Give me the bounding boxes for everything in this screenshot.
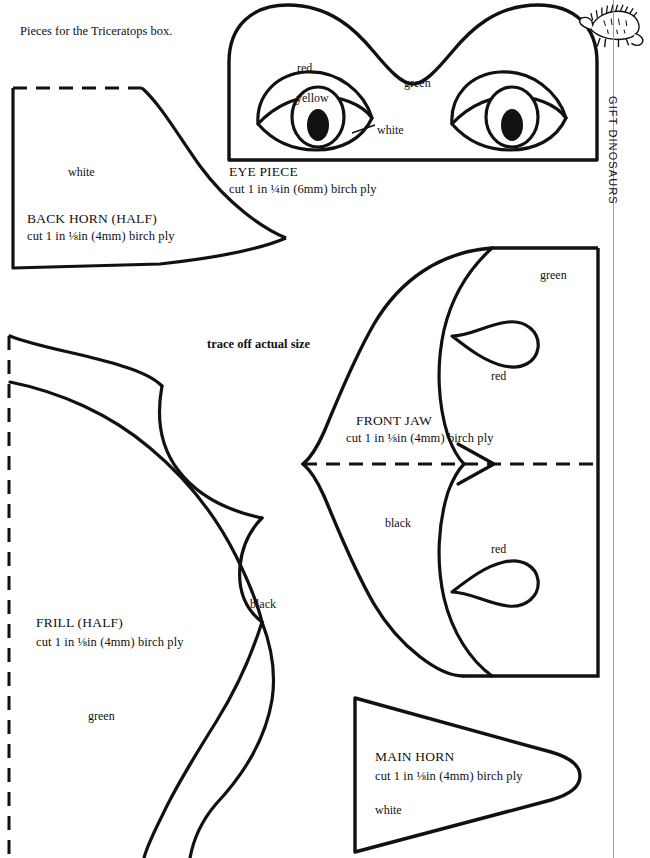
front-jaw-right-edge — [463, 248, 598, 676]
front-jaw-title: FRONT JAW — [356, 413, 432, 429]
eye-colour-green: green — [404, 76, 431, 91]
front-jaw-spec: cut 1 in ⅛in (4mm) birch ply — [346, 431, 494, 446]
intro-note: Pieces for the Triceratops box. — [20, 24, 172, 39]
right-eye-pupil — [501, 109, 523, 141]
front-jaw-shape — [303, 248, 598, 676]
front-jaw-nostril-upper — [452, 322, 538, 367]
jaw-colour-green: green — [540, 268, 567, 283]
front-jaw-nostril-lower — [452, 561, 538, 606]
trace-note: trace off actual size — [207, 337, 310, 352]
eye-piece-title: EYE PIECE — [229, 164, 298, 180]
main-horn-title: MAIN HORN — [375, 749, 454, 765]
eye-colour-yellow: yellow — [296, 91, 329, 106]
left-eye-pupil — [307, 109, 329, 141]
dinosaur-body — [591, 11, 639, 39]
frill-title: FRILL (HALF) — [36, 615, 123, 631]
pattern-artwork — [0, 0, 650, 858]
frill-cusp-one — [159, 386, 262, 518]
eye-colour-red: red — [297, 61, 312, 76]
pattern-sheet: Pieces for the Triceratops box. trace of… — [0, 0, 650, 858]
frill-cusp-three — [190, 622, 274, 858]
jaw-colour-red-bottom: red — [491, 542, 506, 557]
eye-piece-spec: cut 1 in ¼in (6mm) birch ply — [229, 182, 377, 197]
main-horn-colour-white: white — [375, 803, 402, 818]
frill-colour-black: black — [250, 597, 276, 612]
back-horn-spec: cut 1 in ⅛in (4mm) birch ply — [27, 229, 175, 244]
running-head-gift-dinosaurs: GIFT DINOSAURS — [607, 96, 619, 205]
frill-half-shape — [9, 336, 274, 858]
frill-spur-upper-edge — [10, 336, 162, 386]
main-horn-spec: cut 1 in ⅛in (4mm) birch ply — [375, 769, 523, 784]
frill-spec: cut 1 in ⅛in (4mm) birch ply — [36, 635, 184, 650]
frill-outer-edge-upper — [10, 382, 262, 622]
back-horn-colour-white: white — [68, 165, 95, 180]
back-horn-title: BACK HORN (HALF) — [27, 211, 157, 227]
jaw-colour-black: black — [385, 516, 411, 531]
frill-colour-green: green — [88, 709, 115, 724]
jaw-colour-red-top: red — [491, 369, 506, 384]
eye-colour-white: white — [377, 123, 404, 138]
